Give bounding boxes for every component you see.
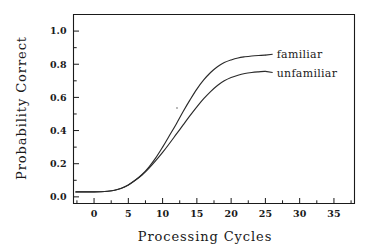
y-tick-label: 0.6 bbox=[50, 92, 67, 103]
x-tick-label: 5 bbox=[125, 208, 132, 219]
series-label-familiar: familiar bbox=[277, 48, 323, 61]
series-label-unfamiliar: unfamiliar bbox=[277, 67, 338, 80]
x-tick-label: 35 bbox=[327, 208, 340, 219]
scan-speck bbox=[176, 107, 178, 109]
x-tick-label: 20 bbox=[225, 208, 239, 219]
x-tick-label: 15 bbox=[190, 208, 203, 219]
y-tick-label: 0.2 bbox=[50, 158, 67, 169]
x-tick-label: 25 bbox=[259, 208, 272, 219]
y-tick-label: 0.8 bbox=[50, 59, 67, 70]
y-axis-title: Probability Correct bbox=[14, 36, 29, 180]
y-tick-label: 0.0 bbox=[50, 191, 67, 202]
y-tick-label: 1.0 bbox=[50, 25, 67, 36]
y-tick-label: 0.4 bbox=[50, 125, 67, 136]
x-tick-label: 30 bbox=[293, 208, 307, 219]
x-tick-label: 0 bbox=[91, 208, 98, 219]
chart-canvas: 05101520253035 0.00.20.40.60.81.0 famili… bbox=[0, 0, 369, 252]
chart-figure: 05101520253035 0.00.20.40.60.81.0 famili… bbox=[0, 0, 369, 252]
x-axis-title: Processing Cycles bbox=[138, 229, 272, 244]
x-tick-label: 10 bbox=[156, 208, 170, 219]
